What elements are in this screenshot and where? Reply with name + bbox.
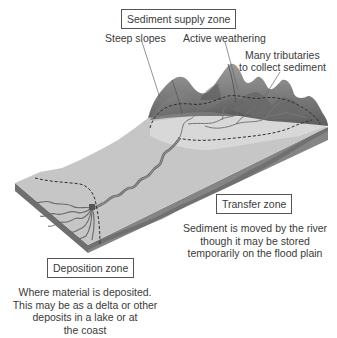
tributaries-label-line2: to collect sediment bbox=[239, 61, 326, 73]
active-weathering-label: Active weathering bbox=[183, 32, 266, 44]
transfer-desc-line-1: Sediment is moved by the river bbox=[180, 222, 330, 235]
transfer-desc-line-2: though it may be stored bbox=[180, 235, 330, 248]
deposition-desc-line-4: the coast bbox=[10, 324, 160, 337]
river-zones-diagram: Sediment supply zone Steep slopes Active… bbox=[0, 0, 337, 338]
supply-zone-title: Sediment supply zone bbox=[121, 9, 236, 29]
tributaries-label-line1: Many tributaries bbox=[245, 49, 320, 61]
transfer-zone-description: Sediment is moved by the river though it… bbox=[180, 222, 330, 260]
deposition-zone-description: Where material is deposited. This may be… bbox=[10, 286, 160, 336]
deposition-desc-line-3: deposits in a lake or at bbox=[10, 311, 160, 324]
steep-slopes-label: Steep slopes bbox=[105, 32, 166, 44]
transfer-desc-line-3: temporarily on the flood plain bbox=[180, 247, 330, 260]
deposition-zone-title: Deposition zone bbox=[47, 258, 134, 278]
deposition-desc-line-2: This may be as a delta or other bbox=[10, 299, 160, 312]
transfer-zone-title: Transfer zone bbox=[216, 194, 292, 214]
deposition-desc-line-1: Where material is deposited. bbox=[10, 286, 160, 299]
